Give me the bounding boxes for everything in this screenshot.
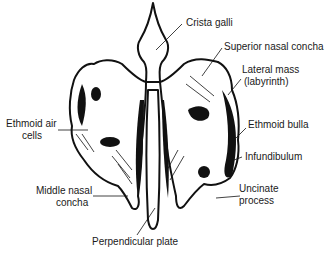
label-infundibulum: Infundibulum (245, 151, 302, 163)
label-ethmoid-air-cells-line1: Ethmoid air (6, 118, 57, 130)
label-middle-nasal-concha-line1: Middle nasal (36, 185, 92, 197)
label-lateral-mass-line1: Lateral mass (242, 64, 299, 76)
label-crista-galli: Crista galli (186, 17, 233, 29)
label-ethmoid-bulla: Ethmoid bulla (248, 119, 309, 131)
label-ethmoid-air-cells-line2: cells (22, 130, 42, 142)
perpendicular-plate-shape (147, 90, 160, 229)
right-lateral-mass-shape (160, 59, 239, 208)
label-middle-nasal-concha-line2: concha (56, 197, 88, 209)
label-superior-nasal-concha: Superior nasal concha (224, 41, 324, 53)
label-uncinate-process-line1: Uncinate (239, 183, 278, 195)
ethmoid-bone-diagram: Crista galli Superior nasal concha Later… (0, 0, 333, 255)
label-uncinate-process-line2: process (239, 195, 274, 207)
label-perpendicular-plate: Perpendicular plate (92, 236, 178, 248)
label-lateral-mass-line2: (labyrinth) (244, 76, 288, 88)
